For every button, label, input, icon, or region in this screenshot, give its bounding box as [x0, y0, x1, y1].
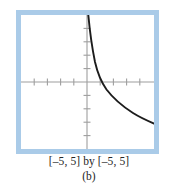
- viewing-window-caption: [–5, 5] by [–5, 5]: [0, 155, 178, 167]
- figure-sublabel: (b): [0, 170, 178, 182]
- plot-area: [21, 15, 154, 149]
- plot-svg: [21, 15, 154, 149]
- function-curve: [88, 15, 154, 124]
- graph-figure: [–5, 5] by [–5, 5] (b): [0, 0, 178, 187]
- axes-group: [21, 15, 154, 149]
